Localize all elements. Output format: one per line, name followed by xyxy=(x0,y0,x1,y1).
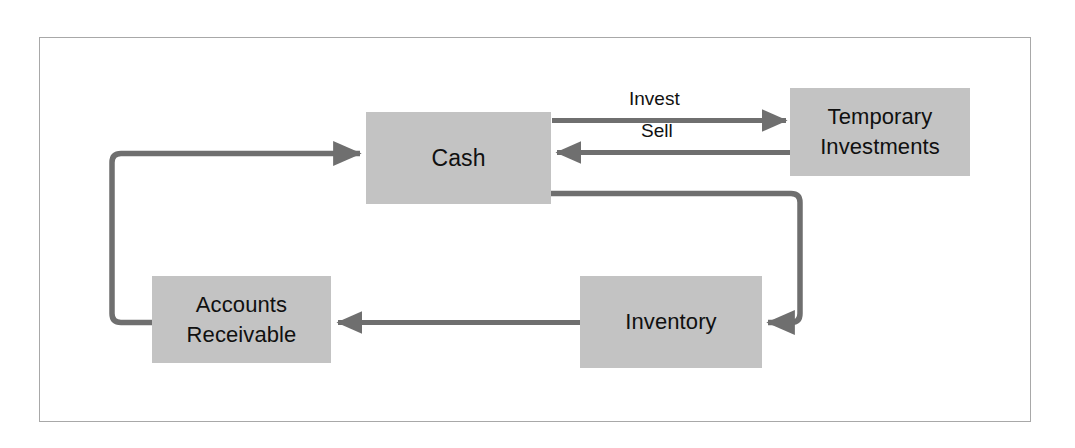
connector-layer xyxy=(0,0,1075,448)
node-temporary-investments[interactable]: Temporary Investments xyxy=(790,88,970,176)
node-cash[interactable]: Cash xyxy=(366,112,551,204)
diagram-canvas: Cash Temporary Investments Inventory Acc… xyxy=(0,0,1075,448)
node-inventory-label: Inventory xyxy=(625,307,716,337)
node-accounts-receivable[interactable]: Accounts Receivable xyxy=(152,276,331,363)
node-temporary-investments-label: Temporary Investments xyxy=(820,102,940,162)
node-accounts-receivable-label: Accounts Receivable xyxy=(187,290,297,350)
node-cash-label: Cash xyxy=(431,143,485,173)
node-inventory[interactable]: Inventory xyxy=(580,276,762,368)
edge-label-sell: Sell xyxy=(641,121,673,141)
edge-label-invest: Invest xyxy=(629,89,680,109)
